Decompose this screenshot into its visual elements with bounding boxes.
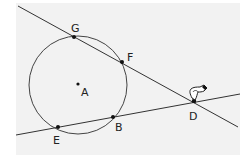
pointing-hand-cursor-icon bbox=[190, 85, 207, 100]
point-f[interactable] bbox=[120, 60, 124, 64]
point-e[interactable] bbox=[56, 125, 60, 129]
line-gfd[interactable] bbox=[18, 6, 238, 127]
label-f: F bbox=[127, 51, 133, 64]
label-b: B bbox=[115, 121, 123, 134]
geometry-diagram: G F A B E D bbox=[0, 0, 252, 161]
point-g[interactable] bbox=[72, 35, 76, 39]
label-a: A bbox=[81, 86, 89, 99]
point-b[interactable] bbox=[111, 115, 115, 119]
line-ebd[interactable] bbox=[16, 94, 240, 135]
label-d: D bbox=[189, 110, 197, 123]
label-g: G bbox=[71, 22, 80, 35]
label-e: E bbox=[53, 134, 60, 147]
point-a[interactable] bbox=[76, 82, 79, 85]
